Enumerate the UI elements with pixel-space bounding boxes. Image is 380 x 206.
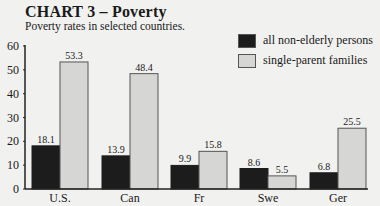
y-tick-label: 30 [7, 111, 19, 125]
x-category-label: Swe [258, 191, 279, 205]
bar-non-elderly [171, 165, 199, 189]
bar-value-label: 25.5 [343, 116, 361, 127]
y-tick-label: 10 [7, 158, 19, 172]
bar-value-label: 8.6 [248, 157, 261, 168]
bar-value-label: 9.9 [179, 153, 192, 164]
bar-single-parent [338, 128, 366, 189]
y-tick-label: 50 [7, 63, 19, 77]
bar-single-parent [199, 151, 227, 189]
bar-value-label: 5.5 [276, 164, 289, 175]
y-tick-label: 20 [7, 134, 19, 148]
bar-chart: 010203040506018.153.3U.S.13.948.4Can9.91… [0, 0, 380, 206]
y-tick-label: 40 [7, 87, 19, 101]
bar-non-elderly [32, 146, 60, 189]
x-category-label: Ger [329, 191, 347, 205]
x-category-label: Can [120, 191, 139, 205]
y-tick-label: 0 [13, 182, 19, 196]
bar-value-label: 13.9 [107, 144, 125, 155]
bar-value-label: 53.3 [65, 50, 83, 61]
bar-value-label: 18.1 [37, 134, 55, 145]
bar-single-parent [60, 62, 88, 189]
y-tick-label: 60 [7, 39, 19, 53]
bar-non-elderly [240, 169, 268, 189]
bar-single-parent [268, 176, 296, 189]
bar-value-label: 15.8 [204, 139, 222, 150]
bar-non-elderly [102, 156, 130, 189]
bar-single-parent [130, 74, 158, 189]
x-category-label: U.S. [49, 191, 70, 205]
bar-value-label: 6.8 [318, 161, 331, 172]
bar-value-label: 48.4 [135, 62, 153, 73]
x-category-label: Fr [194, 191, 205, 205]
bar-non-elderly [310, 173, 338, 189]
